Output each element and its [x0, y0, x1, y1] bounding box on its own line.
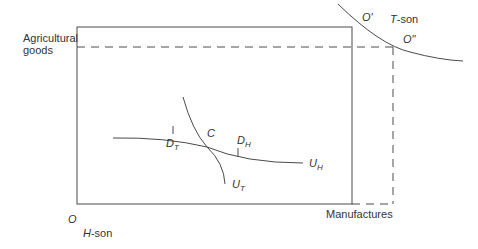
d-t-sub: T — [174, 143, 179, 152]
curve-u-t-label: UT — [232, 178, 245, 195]
t-son-label: T-son — [390, 13, 418, 25]
t-son-letter: T — [390, 13, 397, 25]
u-h-main: U — [309, 157, 317, 169]
axis-label-agricultural: Agricultural goods — [23, 32, 78, 56]
origin-o-label: O — [68, 213, 77, 225]
axis-label-manufactures: Manufactures — [326, 208, 393, 220]
point-d-t-label: DT — [166, 137, 179, 154]
h-son-suffix: -son — [91, 227, 112, 239]
h-son-label: H-son — [83, 227, 112, 239]
t-son-suffix: -son — [397, 13, 418, 25]
origin-o-double-prime-label: O" — [403, 33, 415, 45]
axis-label-agricultural-line2: goods — [23, 44, 78, 56]
d-h-sub: H — [245, 140, 251, 149]
d-t-main: D — [166, 137, 174, 149]
u-t-curve — [183, 97, 225, 184]
d-h-main: D — [237, 134, 245, 146]
point-d-h-label: DH — [237, 134, 251, 151]
edgeworth-box — [77, 27, 352, 204]
curve-u-h-label: UH — [309, 157, 323, 174]
origin-o-prime-label: O' — [362, 11, 373, 23]
u-t-main: U — [232, 178, 240, 190]
u-t-sub: T — [240, 184, 245, 193]
axis-label-agricultural-line1: Agricultural — [23, 32, 78, 44]
u-h-curve — [113, 138, 303, 163]
h-son-letter: H — [83, 227, 91, 239]
point-c-label: C — [207, 127, 215, 139]
u-h-sub: H — [317, 163, 323, 172]
